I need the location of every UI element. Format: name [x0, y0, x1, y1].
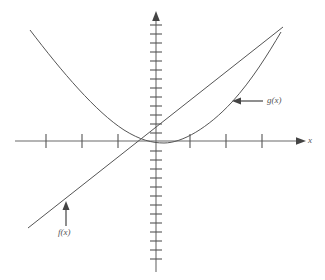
- y-axis-arrowhead: [152, 11, 160, 21]
- plot-canvas: [0, 0, 325, 280]
- f-annotation-arrow: [63, 201, 70, 226]
- x-axis-label: x: [308, 136, 312, 145]
- g-function-label: g(x): [267, 96, 282, 105]
- graph-figure: x f(x) g(x): [0, 0, 325, 280]
- x-axis-arrowhead: [296, 137, 306, 145]
- g-annotation-arrow: [232, 98, 263, 105]
- f-function-label: f(x): [58, 228, 71, 237]
